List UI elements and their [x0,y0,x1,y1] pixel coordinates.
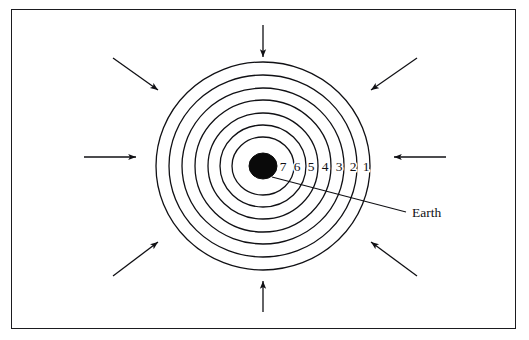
arrow-bottom-right [371,242,417,276]
figure-stage: 11223344556677 Earth [0,0,529,340]
annotation-labels-group: Earth [412,205,441,220]
shell-label-6: 6 [294,159,301,174]
shell-number-labels-group: 11223344556677 [280,159,370,174]
arrow-top-left [113,58,158,90]
earth-core-group [249,153,277,179]
earth-leader-line-group [272,177,406,212]
shell-label-7: 7 [280,159,287,174]
shell-label-4: 4 [322,159,329,174]
shell-label-5: 5 [308,159,315,174]
shell-label-1: 1 [363,159,370,174]
earth-core-circle [249,153,277,179]
earth-label: Earth [412,205,441,220]
earth-leader-line [272,177,406,212]
shell-label-3: 3 [336,159,343,174]
diagram-canvas: 11223344556677 Earth [0,0,529,340]
arrow-bottom-left [113,242,158,276]
arrow-top-right [371,58,417,90]
shell-label-2: 2 [350,159,357,174]
